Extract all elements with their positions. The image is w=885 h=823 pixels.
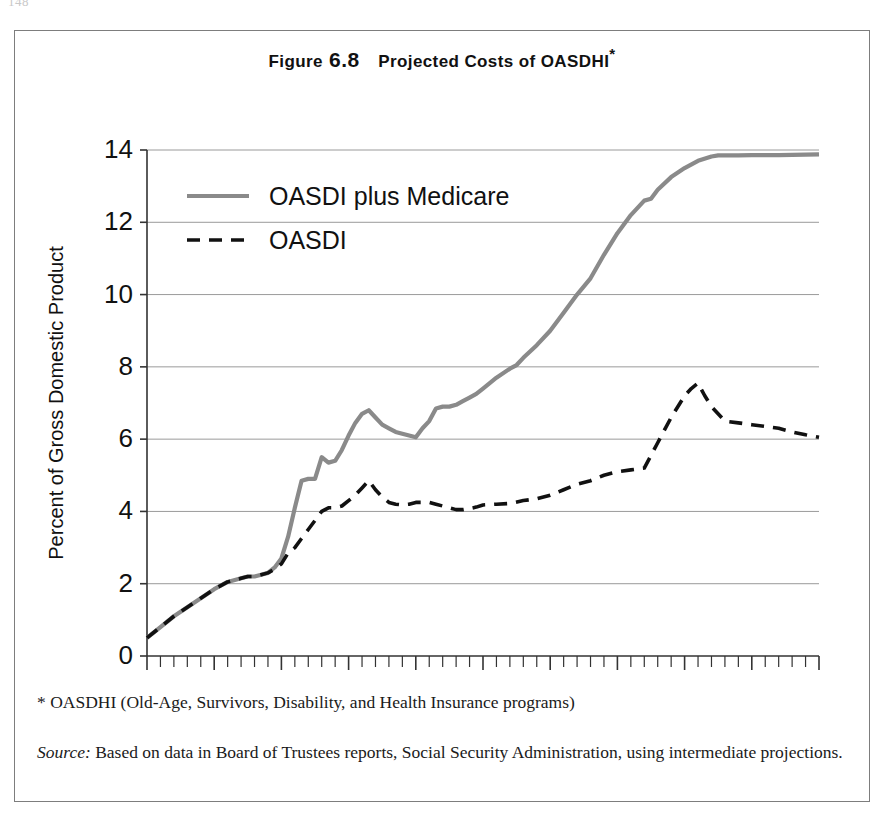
figure-title: Figure 6.8 Projected Costs of OASDHI* xyxy=(15,45,869,72)
figure-title-number: 6.8 xyxy=(329,48,359,71)
y-tick-label: 10 xyxy=(104,279,133,309)
figure-source-note: Source: Based on data in Board of Truste… xyxy=(37,740,849,765)
y-axis-title: Percent of Gross Domestic Product xyxy=(45,246,67,560)
y-tick-label: 4 xyxy=(119,495,133,525)
y-tick-label: 8 xyxy=(119,351,133,381)
y-tick-label: 14 xyxy=(104,134,133,164)
figure-page: 148 Figure 6.8 Projected Costs of OASDHI… xyxy=(0,0,885,823)
source-text: Based on data in Board of Trustees repor… xyxy=(95,742,843,762)
y-tick-label: 0 xyxy=(119,640,133,670)
series-line-1 xyxy=(147,383,819,638)
source-label: Source: xyxy=(37,742,91,762)
y-tick-label: 12 xyxy=(104,206,133,236)
chart-plot-area: 0246810121419501960197019801990200020102… xyxy=(15,76,871,676)
series-line-0 xyxy=(147,154,819,638)
chart-svg: 0246810121419501960197019801990200020102… xyxy=(15,76,871,676)
y-tick-label: 6 xyxy=(119,423,133,453)
figure-title-prefix: Figure xyxy=(268,52,322,71)
legend-label-0: OASDI plus Medicare xyxy=(269,182,509,210)
figure-frame: Figure 6.8 Projected Costs of OASDHI* 02… xyxy=(14,30,870,802)
figure-title-main: Projected Costs of OASDHI xyxy=(378,52,609,71)
legend-label-1: OASDI xyxy=(269,226,347,254)
y-tick-label: 2 xyxy=(119,568,133,598)
figure-title-asterisk: * xyxy=(609,45,615,62)
figure-notes: * OASDHI (Old-Age, Survivors, Disability… xyxy=(37,691,849,765)
page-number: 148 xyxy=(8,0,29,10)
figure-footnote: * OASDHI (Old-Age, Survivors, Disability… xyxy=(37,691,849,715)
